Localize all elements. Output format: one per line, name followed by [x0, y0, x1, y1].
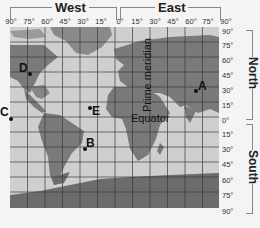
longitude-label: 60°: [185, 17, 196, 26]
latitude-label: 90°: [222, 207, 233, 216]
north-label: North: [246, 57, 260, 89]
latitude-label: 45°: [222, 71, 233, 80]
longitude-label: 15°: [95, 17, 106, 26]
longitude-label: 0°: [116, 17, 123, 26]
latitude-label: 30°: [222, 86, 233, 95]
latitude-label: 0°: [222, 116, 229, 125]
equator-label: Equator: [131, 112, 170, 124]
world-map: [10, 27, 219, 208]
longitude-label: 45°: [59, 17, 70, 26]
latitude-label: 15°: [222, 130, 233, 139]
point-b-label: B: [86, 136, 95, 150]
west-label: West: [52, 0, 89, 15]
latitude-label: 75°: [222, 41, 233, 50]
latitude-label: 15°: [222, 101, 233, 110]
map-graphic: [10, 27, 219, 208]
point-a-label: A: [198, 79, 207, 93]
point-d-label: D: [19, 61, 28, 75]
longitude-label: 90°: [5, 17, 16, 26]
longitude-label: 60°: [41, 17, 52, 26]
latitude-label: 60°: [222, 176, 233, 185]
longitude-label: 30°: [149, 17, 160, 26]
latitude-label: 30°: [222, 145, 233, 154]
latitude-label: 90°: [222, 27, 233, 36]
longitude-label: 75°: [23, 17, 34, 26]
east-label: East: [155, 0, 188, 15]
longitude-label: 75°: [202, 17, 213, 26]
point-e-label: E: [92, 104, 100, 118]
latitude-label: 75°: [222, 191, 233, 200]
longitude-label: 15°: [131, 17, 142, 26]
latitude-label: 45°: [222, 160, 233, 169]
prime-meridian-label: Prime meridian: [141, 38, 153, 112]
latitude-label: 60°: [222, 56, 233, 65]
point-c-label: C: [0, 105, 9, 119]
longitude-label: 30°: [77, 17, 88, 26]
longitude-label: 90°: [220, 17, 231, 26]
south-label: South: [246, 150, 260, 184]
longitude-label: 45°: [167, 17, 178, 26]
point-d-marker: [28, 72, 32, 76]
point-c-marker: [9, 117, 13, 121]
